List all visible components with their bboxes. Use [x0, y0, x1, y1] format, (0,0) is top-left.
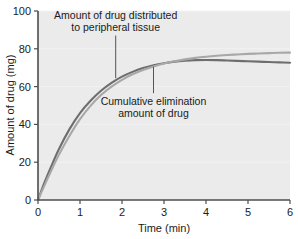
y-tick-label: 60 [19, 81, 31, 93]
annotation-cumulative-elimination-line-1: amount of drug [118, 107, 189, 119]
x-tick-label: 2 [119, 206, 125, 218]
y-tick-label: 0 [25, 194, 31, 206]
y-tick-label: 40 [19, 118, 31, 130]
x-tick-label: 4 [203, 206, 209, 218]
annotation-cumulative-elimination-line-0: Cumulative elimination [101, 95, 207, 107]
annotation-peripheral-tissue-line-0: Amount of drug distributed [54, 9, 177, 21]
x-tick-label: 6 [287, 206, 293, 218]
x-tick-label: 1 [77, 206, 83, 218]
x-tick-label: 5 [245, 206, 251, 218]
y-tick-label: 80 [19, 43, 31, 55]
chart-figure: 020406080100 0123456 Amount of drug dist… [0, 0, 298, 239]
y-tick-label: 20 [19, 156, 31, 168]
x-axis-title: Time (min) [138, 222, 190, 234]
y-tick-label: 100 [13, 5, 31, 17]
x-tick-label: 3 [161, 206, 167, 218]
y-axis-title: Amount of drug (mg) [4, 55, 16, 156]
annotation-peripheral-tissue-line-1: to peripheral tissue [71, 21, 160, 33]
drug-distribution-line-chart: 020406080100 0123456 Amount of drug dist… [0, 0, 298, 239]
x-tick-label: 0 [35, 206, 41, 218]
